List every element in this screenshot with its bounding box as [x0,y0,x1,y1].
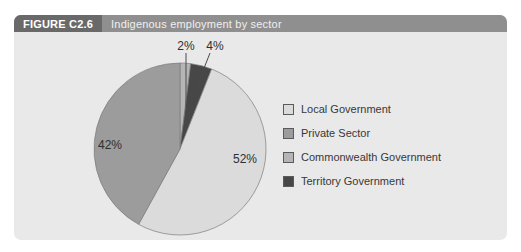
pct-label-commonwealth: 2% [177,39,194,53]
figure-header: FIGURE C2.6 Indigenous employment by sec… [14,15,507,32]
legend-item-local: Local Government [283,103,441,115]
legend-item-territory: Territory Government [283,175,441,187]
legend-swatch-territory [283,176,294,187]
pct-label-territory: 4% [206,39,223,53]
legend-item-private: Private Sector [283,127,441,139]
legend-label-local: Local Government [301,103,391,115]
pct-label-private: 42% [98,138,122,152]
legend-swatch-commonwealth [283,152,294,163]
legend-item-commonwealth: Commonwealth Government [283,151,441,163]
legend-swatch-private [283,128,294,139]
pct-label-local: 52% [233,152,257,166]
figure-number-label: FIGURE C2.6 [14,15,102,32]
legend: Local Government Private Sector Commonwe… [283,103,441,199]
figure-panel: FIGURE C2.6 Indigenous employment by sec… [14,15,507,240]
legend-swatch-local [283,104,294,115]
legend-label-commonwealth: Commonwealth Government [301,151,441,163]
figure-title: Indigenous employment by sector [102,15,291,32]
legend-label-territory: Territory Government [301,175,404,187]
legend-label-private: Private Sector [301,127,370,139]
